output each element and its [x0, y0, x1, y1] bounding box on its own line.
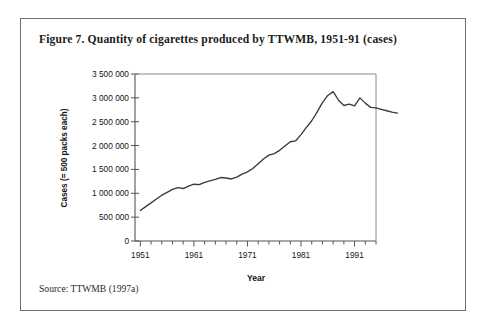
x-tick-label: 1951 — [131, 250, 150, 260]
x-tick-label: 1991 — [345, 250, 364, 260]
x-tick-label: 1971 — [238, 250, 257, 260]
figure-container: Figure 7. Quantity of cigarettes produce… — [20, 18, 466, 311]
y-axis-title: Cases (= 500 packs each) — [60, 108, 69, 207]
chart-plot-area: 3 500 0003 000 0002 500 0002 000 0001 50… — [21, 19, 467, 312]
x-axis-tick-labels: 19511961197119811991 — [131, 250, 364, 260]
y-tick-label: 1 000 000 — [92, 188, 129, 198]
x-tick-label: 1981 — [292, 250, 311, 260]
line-chart: 3 500 0003 000 0002 500 0002 000 0001 50… — [21, 19, 467, 312]
x-axis-title: Year — [247, 273, 266, 283]
y-tick-label: 500 000 — [99, 212, 129, 222]
y-tick-label: 2 000 000 — [92, 141, 129, 151]
y-tick-label: 1 500 000 — [92, 164, 129, 174]
y-tick-label: 3 000 000 — [92, 93, 129, 103]
x-tick-label: 1961 — [185, 250, 204, 260]
y-tick-label: 0 — [124, 236, 129, 246]
y-tick-label: 2 500 000 — [92, 117, 129, 127]
data-series-line — [140, 92, 397, 211]
x-axis-tick-marks — [140, 241, 376, 247]
y-tick-label: 3 500 000 — [92, 69, 129, 79]
y-axis-tick-labels: 3 500 0003 000 0002 500 0002 000 0001 50… — [92, 69, 129, 246]
